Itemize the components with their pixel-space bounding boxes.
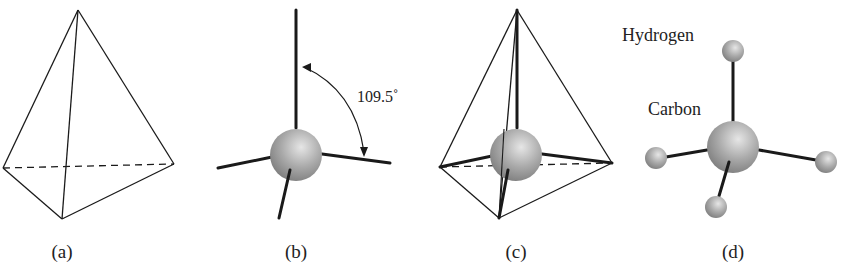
caption-c: (c)	[505, 241, 526, 263]
hydrogen-left	[645, 147, 667, 169]
panel-b-bond-angles: 109.5˚ (b)	[218, 10, 398, 263]
panel-c-inscribed: (c)	[440, 10, 612, 263]
carbon-atom	[707, 121, 759, 173]
carbon-label: Carbon	[648, 99, 701, 119]
angle-label: 109.5˚	[357, 88, 398, 105]
hydrogen-label: Hydrogen	[622, 25, 694, 45]
hydrogen-top	[722, 40, 744, 62]
panel-a-tetrahedron: (a)	[3, 10, 174, 263]
central-atom-b	[270, 129, 322, 181]
tetrahedral-geometry-figure: (a) 109.5˚ (b)	[0, 0, 845, 269]
caption-d: (d)	[722, 241, 744, 263]
caption-a: (a)	[51, 241, 72, 263]
central-atom-c	[490, 129, 542, 181]
panel-d-methane: Hydrogen Carbon (d)	[622, 25, 837, 263]
hydrogen-bottom	[705, 196, 727, 218]
hydrogen-right	[815, 151, 837, 173]
caption-b: (b)	[285, 241, 307, 263]
